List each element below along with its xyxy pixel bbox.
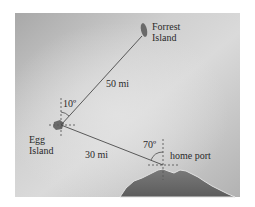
distance-label-30: 30 mi [85, 149, 108, 160]
distance-label-50: 50 mi [106, 78, 129, 89]
angle-label-10: 10º [63, 98, 76, 109]
egg-island-label: Egg Island [29, 134, 53, 156]
home-port-label: home port [170, 150, 211, 161]
forrest-label-line2: Island [152, 32, 180, 43]
angle-label-70: 70º [143, 139, 156, 150]
forrest-island-label: Forrest Island [152, 21, 180, 43]
map-diagram [0, 0, 255, 207]
egg-label-line1: Egg [29, 134, 53, 145]
forrest-label-line1: Forrest [152, 21, 180, 32]
egg-label-line2: Island [29, 145, 53, 156]
